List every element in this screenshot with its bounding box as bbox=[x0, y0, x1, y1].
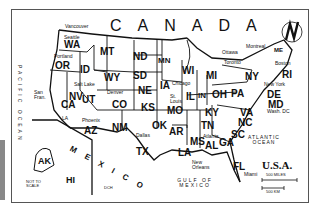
city-miami: Miami bbox=[244, 172, 257, 177]
label-gulf-of-mexico: GULF OF MEXICO bbox=[170, 178, 220, 188]
state-pa: PA bbox=[231, 89, 244, 99]
city-ottawa: Ottawa bbox=[222, 50, 238, 55]
state-nm: NM bbox=[112, 123, 128, 133]
city-salt-lake: Salt Lake bbox=[74, 82, 95, 87]
state-in: IN bbox=[198, 92, 206, 100]
state-ks: KS bbox=[141, 103, 155, 113]
state-wi: WI bbox=[182, 66, 194, 76]
state-al: AL bbox=[205, 141, 218, 151]
city-la: LA bbox=[62, 116, 68, 121]
city-washington-dc: Wash. DC bbox=[267, 109, 290, 114]
city-vancouver: Vancouver bbox=[65, 24, 89, 29]
state-wa: WA bbox=[64, 40, 80, 50]
city-chicago: Chicago bbox=[172, 81, 190, 86]
state-tn: TN bbox=[201, 121, 214, 131]
city-san-francisco: San Fran. bbox=[34, 90, 48, 100]
state-me: ME bbox=[274, 47, 283, 53]
city-atlanta: Atlanta bbox=[203, 134, 219, 139]
scale-miles: 500 MILES bbox=[266, 173, 286, 177]
state-nv: NV bbox=[69, 92, 83, 102]
city-toronto: Toronto bbox=[224, 60, 241, 65]
state-oh: OH bbox=[212, 90, 227, 100]
us-map-outline bbox=[12, 10, 308, 202]
state-la: LA bbox=[178, 148, 191, 158]
state-il: IL bbox=[186, 92, 195, 102]
state-az: AZ bbox=[84, 126, 97, 136]
label-canada: CANADA bbox=[110, 18, 273, 34]
city-montreal: Montreal bbox=[246, 44, 265, 49]
state-sd: SD bbox=[133, 71, 147, 81]
state-nc: NC bbox=[238, 118, 252, 128]
state-tx: TX bbox=[136, 147, 149, 157]
state-or: OR bbox=[55, 61, 70, 71]
state-mo: MO bbox=[167, 106, 183, 116]
map-frame: CANADA MEXICO PACIFIC OCEAN ATLANTIC OCE… bbox=[11, 9, 309, 203]
city-phoenix: Phoenix bbox=[82, 118, 100, 123]
label-usa: U.S.A. bbox=[262, 160, 292, 171]
city-new-york: New York bbox=[264, 82, 285, 87]
city-dallas: Dallas bbox=[136, 133, 150, 138]
inset-not-to-scale: NOT TO SCALE bbox=[26, 180, 44, 188]
label-pacific-ocean: PACIFIC OCEAN bbox=[17, 65, 22, 143]
city-seattle: Seattle bbox=[64, 35, 80, 40]
state-sc: SC bbox=[231, 130, 245, 140]
state-mt: MT bbox=[100, 47, 114, 57]
state-ut: UT bbox=[82, 95, 95, 105]
scale-km: 500 KM bbox=[266, 190, 280, 194]
state-mn: MN bbox=[158, 57, 170, 65]
state-ny: NY bbox=[245, 72, 259, 82]
state-mi: MI bbox=[206, 71, 217, 81]
state-id: ID bbox=[80, 65, 90, 75]
label-atlantic-ocean: ATLANTIC OCEAN bbox=[244, 135, 284, 145]
state-ri: RI bbox=[282, 70, 292, 80]
state-ne: NE bbox=[138, 86, 152, 96]
state-wy: WY bbox=[104, 73, 120, 83]
compass-icon bbox=[282, 22, 302, 42]
state-hi: HI bbox=[66, 176, 75, 185]
artist-initials: DCH bbox=[104, 186, 113, 190]
city-st-louis: St. Louis bbox=[170, 94, 184, 104]
city-portland: Portland bbox=[54, 54, 73, 59]
side-strip bbox=[0, 140, 5, 200]
city-new-orleans: New Orleans bbox=[192, 160, 216, 170]
state-co: CO bbox=[112, 100, 127, 110]
state-nd: ND bbox=[133, 52, 147, 62]
city-boston: Boston bbox=[275, 61, 291, 66]
state-ar: AR bbox=[169, 127, 183, 137]
state-ky: KY bbox=[205, 108, 219, 118]
state-va: VA bbox=[240, 108, 253, 118]
city-denver: Denver bbox=[107, 90, 123, 95]
state-ak: AK bbox=[38, 157, 51, 166]
state-ia: IA bbox=[160, 81, 170, 91]
state-ok: OK bbox=[152, 121, 167, 131]
